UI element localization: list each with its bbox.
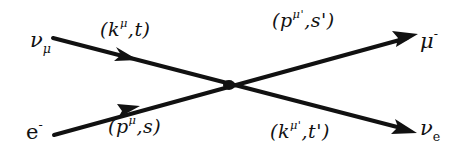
lorentz-index: μ' bbox=[290, 118, 302, 132]
particle-symbol: ν bbox=[30, 28, 43, 52]
lorentz-index: μ bbox=[120, 16, 128, 30]
particle-label-nu-mu: νμ bbox=[30, 30, 51, 55]
momentum-symbol: p bbox=[116, 115, 129, 137]
feynman-diagram bbox=[0, 0, 473, 157]
paren: ( bbox=[108, 115, 116, 137]
particle-symbol: μ bbox=[420, 29, 434, 53]
lorentz-index: μ' bbox=[293, 7, 305, 21]
paren: ( bbox=[100, 18, 108, 40]
paren: ( bbox=[272, 9, 280, 31]
particle-label-muon: μ- bbox=[420, 30, 438, 52]
spin-part: ,s') bbox=[304, 9, 334, 31]
spin-part: ,s) bbox=[137, 115, 162, 137]
paren: ( bbox=[270, 120, 278, 142]
momentum-symbol: p bbox=[280, 9, 293, 31]
spin-part: ,t') bbox=[301, 120, 329, 142]
lorentz-index: μ bbox=[129, 113, 137, 127]
momentum-label-in-top: (kμ,t) bbox=[100, 20, 150, 39]
spin-part: ,t) bbox=[128, 18, 151, 40]
particle-superscript: - bbox=[434, 26, 438, 41]
particle-label-electron: e- bbox=[26, 121, 43, 143]
particle-superscript: - bbox=[38, 117, 42, 132]
momentum-symbol: k bbox=[278, 120, 290, 142]
particle-subscript: μ bbox=[43, 41, 51, 56]
particle-label-nu-e: νe bbox=[420, 118, 440, 143]
particle-symbol: e bbox=[26, 120, 38, 144]
vertex-dot bbox=[223, 80, 235, 90]
particle-symbol: ν bbox=[420, 116, 433, 140]
momentum-label-out-top: (pμ',s') bbox=[272, 11, 335, 30]
momentum-label-in-bottom: (pμ,s) bbox=[108, 117, 161, 136]
particle-subscript: e bbox=[433, 129, 440, 144]
momentum-symbol: k bbox=[108, 18, 120, 40]
momentum-label-out-bottom: (kμ',t') bbox=[270, 122, 330, 141]
